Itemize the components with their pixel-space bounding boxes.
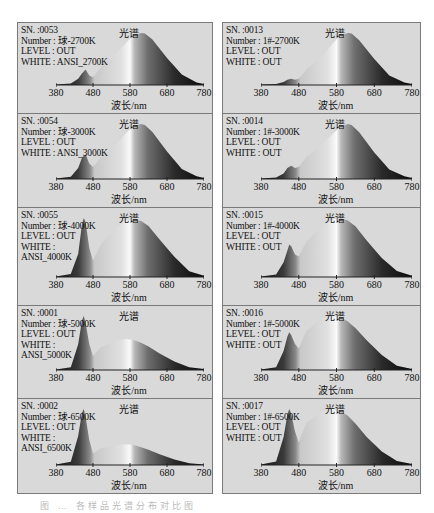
sample-info: SN. :0015Number : 1#-4000KLEVEL : OUTWHI… <box>226 210 300 252</box>
level-value: LEVEL : OUT <box>226 137 300 148</box>
x-axis-label: 波长/nm <box>18 477 212 492</box>
panel-title: 光谱 <box>119 25 139 40</box>
serial-number: SN. :0016 <box>226 308 300 319</box>
serial-number: SN. :0053 <box>21 25 108 36</box>
white-value: WHITE : <box>21 242 95 253</box>
sample-info: SN. :0053Number : 球-2700KLEVEL : OUTWHIT… <box>21 25 108 67</box>
panel-title: 光谱 <box>325 25 345 40</box>
sample-number: Number : 1#-3000K <box>226 127 300 138</box>
serial-number: SN. :0014 <box>226 116 300 127</box>
white-value: WHITE : OUT <box>226 57 300 68</box>
serial-number: SN. :0001 <box>21 308 95 319</box>
panel-title: 光谱 <box>119 401 139 416</box>
figure-caption: 图 … 各样品光谱分布对比图 <box>40 499 196 512</box>
sample-number: Number : 球-3000K <box>21 127 108 138</box>
sample-number: Number : 球-5000K <box>21 319 95 330</box>
sample-number: Number : 球-6500K <box>21 412 95 423</box>
white-value: WHITE : <box>21 433 95 444</box>
spectrum-panel-0055: SN. :0055Number : 球-4000KLEVEL : OUTWHIT… <box>17 207 213 306</box>
spectrum-panel-0014: SN. :0014Number : 1#-3000KLEVEL : OUTWHI… <box>222 113 421 208</box>
white-value: WHITE : OUT <box>226 148 300 159</box>
white-value: WHITE : ANSI_2700K <box>21 57 108 68</box>
sample-info: SN. :0055Number : 球-4000KLEVEL : OUTWHIT… <box>21 210 95 263</box>
white-standard: ANSI_4000K <box>21 252 95 263</box>
x-axis-label: 波长/nm <box>223 382 420 397</box>
sample-info: SN. :0054Number : 球-3000KLEVEL : OUTWHIT… <box>21 116 108 158</box>
sample-number: Number : 1#-5000K <box>226 319 300 330</box>
white-standard: ANSI_5000K <box>21 350 95 361</box>
level-value: LEVEL : OUT <box>226 422 300 433</box>
sample-info: SN. :0013Number : 1#-2700KLEVEL : OUTWHI… <box>226 25 300 67</box>
serial-number: SN. :0017 <box>226 401 300 412</box>
white-value: WHITE : OUT <box>226 242 300 253</box>
serial-number: SN. :0055 <box>21 210 95 221</box>
panel-title: 光谱 <box>119 210 139 225</box>
spectrum-panel-0016: SN. :0016Number : 1#-5000KLEVEL : OUTWHI… <box>222 305 421 399</box>
level-value: LEVEL : OUT <box>21 46 108 57</box>
panel-title: 光谱 <box>325 116 345 131</box>
spectrum-panel-0015: SN. :0015Number : 1#-4000KLEVEL : OUTWHI… <box>222 207 421 306</box>
x-axis-label: 波长/nm <box>223 191 420 206</box>
spectrum-panel-0053: SN. :0053Number : 球-2700KLEVEL : OUTWHIT… <box>17 22 213 114</box>
level-value: LEVEL : OUT <box>21 231 95 242</box>
sample-info: SN. :0014Number : 1#-3000KLEVEL : OUTWHI… <box>226 116 300 158</box>
panel-title: 光谱 <box>325 401 345 416</box>
sample-number: Number : 1#-4000K <box>226 221 300 232</box>
sample-info: SN. :0017Number : 1#-6500KLEVEL : OUTWHI… <box>226 401 300 443</box>
level-value: LEVEL : OUT <box>21 422 95 433</box>
panel-title: 光谱 <box>325 210 345 225</box>
sample-number: Number : 球-4000K <box>21 221 95 232</box>
serial-number: SN. :0013 <box>226 25 300 36</box>
spectrum-panel-0002: SN. :0002Number : 球-6500KLEVEL : OUTWHIT… <box>17 398 213 494</box>
sample-number: Number : 1#-2700K <box>226 36 300 47</box>
x-axis-label: 波长/nm <box>18 97 212 112</box>
sample-info: SN. :0016Number : 1#-5000KLEVEL : OUTWHI… <box>226 308 300 350</box>
spectrum-panel-0001: SN. :0001Number : 球-5000KLEVEL : OUTWHIT… <box>17 305 213 399</box>
x-axis-label: 波长/nm <box>223 97 420 112</box>
white-value: WHITE : OUT <box>226 433 300 444</box>
serial-number: SN. :0015 <box>226 210 300 221</box>
serial-number: SN. :0054 <box>21 116 108 127</box>
level-value: LEVEL : OUT <box>226 46 300 57</box>
level-value: LEVEL : OUT <box>21 329 95 340</box>
panel-title: 光谱 <box>119 116 139 131</box>
spectrum-figure: SN. :0053Number : 球-2700KLEVEL : OUTWHIT… <box>0 0 434 513</box>
x-axis-label: 波长/nm <box>223 477 420 492</box>
panel-title: 光谱 <box>325 308 345 323</box>
sample-number: Number : 1#-6500K <box>226 412 300 423</box>
white-value: WHITE : <box>21 340 95 351</box>
x-axis-label: 波长/nm <box>18 382 212 397</box>
serial-number: SN. :0002 <box>21 401 95 412</box>
x-axis-label: 波长/nm <box>223 289 420 304</box>
white-value: WHITE : ANSI_3000K <box>21 148 108 159</box>
level-value: LEVEL : OUT <box>226 231 300 242</box>
level-value: LEVEL : OUT <box>21 137 108 148</box>
white-value: WHITE : OUT <box>226 340 300 351</box>
level-value: LEVEL : OUT <box>226 329 300 340</box>
spectrum-panel-0013: SN. :0013Number : 1#-2700KLEVEL : OUTWHI… <box>222 22 421 114</box>
x-axis-label: 波长/nm <box>18 191 212 206</box>
x-axis-label: 波长/nm <box>18 289 212 304</box>
sample-info: SN. :0002Number : 球-6500KLEVEL : OUTWHIT… <box>21 401 95 454</box>
sample-info: SN. :0001Number : 球-5000KLEVEL : OUTWHIT… <box>21 308 95 361</box>
white-standard: ANSI_6500K <box>21 443 95 454</box>
spectrum-panel-0054: SN. :0054Number : 球-3000KLEVEL : OUTWHIT… <box>17 113 213 208</box>
panel-title: 光谱 <box>119 308 139 323</box>
spectrum-panel-0017: SN. :0017Number : 1#-6500KLEVEL : OUTWHI… <box>222 398 421 494</box>
sample-number: Number : 球-2700K <box>21 36 108 47</box>
